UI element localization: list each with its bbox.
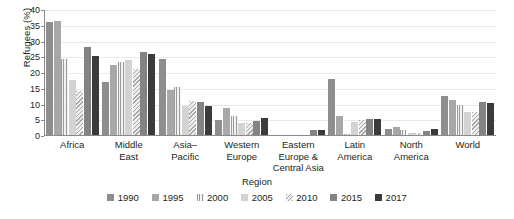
legend-label: 1995 [162,192,183,203]
bar-group [214,10,271,136]
x-axis-label: EasternEurope &Central Asia [270,139,327,174]
bar-2005 [182,106,189,136]
bar-2010 [359,120,366,136]
refugees-by-region-bar-chart: Refugees (%) 0510152025303540 AfricaMidd… [0,0,514,219]
bar-2005 [464,112,471,136]
bar-group [327,10,384,136]
legend-item-1995[interactable]: 1995 [152,192,184,203]
y-axis-tick-mark [41,136,44,137]
x-axis-label: MiddleEast [101,139,158,174]
legend-swatch-icon [330,194,337,201]
bar-group [270,10,327,136]
legend: 1990199520002005201020152017 [0,192,514,203]
bar-2000 [118,62,125,136]
bar-group [440,10,497,136]
bar-2000 [457,105,464,136]
bar-2015 [84,47,91,136]
bar-2005 [351,122,358,136]
legend-swatch-icon [197,194,204,201]
bar-1995 [336,116,343,136]
x-axis-label: Asia–Pacific [157,139,214,174]
bar-group [101,10,158,136]
bar-2015 [197,102,204,136]
bar-1990 [441,96,448,136]
legend-swatch-icon [241,194,248,201]
bar-1990 [328,79,335,136]
bar-2000 [174,87,181,136]
bar-2017 [148,54,155,136]
x-axis-label: WesternEurope [214,139,271,174]
legend-swatch-icon [107,194,114,201]
legend-label: 1990 [118,192,139,203]
legend-item-2015[interactable]: 2015 [330,192,362,203]
legend-swatch-icon [286,194,293,201]
x-axis-category-labels: AfricaMiddleEastAsia–PacificWesternEurop… [44,139,496,174]
bar-2010 [133,69,140,136]
bar-group [44,10,101,136]
x-axis-label: LatinAmerica [327,139,384,174]
bar-1995 [54,21,61,136]
legend-item-2010[interactable]: 2010 [286,192,318,203]
bar-2010 [472,112,479,136]
x-axis-line [44,135,496,136]
legend-item-2005[interactable]: 2005 [241,192,273,203]
legend-item-2000[interactable]: 2000 [197,192,229,203]
plot-area: 0510152025303540 [44,10,496,136]
bar-2005 [69,80,76,136]
legend-title: Region [0,176,514,187]
bar-1990 [159,59,166,136]
bar-2017 [487,103,494,136]
bar-2010 [76,91,83,136]
bar-1995 [223,108,230,136]
bar-2017 [261,118,268,136]
bar-1995 [449,100,456,136]
x-axis-label: World [440,139,497,174]
legend-label: 2005 [252,192,273,203]
bar-2000 [231,116,238,136]
bar-1990 [102,82,109,136]
bar-2010 [189,101,196,136]
bar-group [383,10,440,136]
bar-2015 [253,121,260,136]
legend-label: 2017 [386,192,407,203]
bar-2017 [205,106,212,136]
bar-2005 [125,60,132,136]
bar-1995 [110,65,117,136]
legend-swatch-icon [375,194,382,201]
legend-label: 2015 [341,192,362,203]
x-axis-label: Africa [44,139,101,174]
legend-item-2017[interactable]: 2017 [375,192,407,203]
bar-2017 [374,119,381,136]
legend-swatch-icon [152,194,159,201]
legend-label: 2000 [207,192,228,203]
bar-group [157,10,214,136]
bar-2015 [140,52,147,136]
legend-label: 2010 [296,192,317,203]
bar-1995 [167,90,174,136]
bar-2015 [479,102,486,136]
bar-groups [44,10,496,136]
bar-2000 [61,59,68,136]
legend-item-1990[interactable]: 1990 [107,192,139,203]
y-axis-line [44,10,45,136]
bar-2017 [92,56,99,136]
bar-2015 [366,119,373,136]
bar-1990 [46,22,53,136]
x-axis-label: NorthAmerica [383,139,440,174]
bar-1990 [215,120,222,136]
